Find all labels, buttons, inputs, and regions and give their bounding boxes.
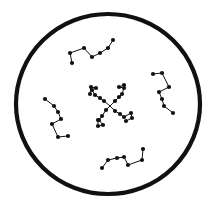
monomer-bead: [52, 104, 56, 108]
monomer-bead: [89, 85, 93, 89]
monomer-bead: [160, 71, 164, 75]
monomer-bead: [157, 90, 161, 94]
monomer-bead: [88, 92, 92, 96]
monomer-bead: [151, 72, 155, 76]
monomer-bead: [106, 158, 110, 162]
monomer-bead: [111, 38, 115, 42]
chain-bottom: [100, 147, 145, 170]
droplet-diagram: [0, 0, 210, 205]
monomer-bead: [117, 95, 121, 99]
chain-left: [43, 97, 70, 139]
monomer-bead: [66, 134, 70, 138]
monomer-bead: [50, 122, 54, 126]
monomer-bead: [104, 108, 108, 112]
monomer-bead: [162, 104, 166, 108]
monomer-bead: [118, 112, 122, 116]
monomer-bead: [117, 85, 121, 89]
star-polymer: [88, 83, 134, 128]
monomer-bead: [59, 117, 63, 121]
monomer-bead: [113, 109, 117, 113]
monomer-bead: [129, 111, 133, 115]
monomer-bead: [171, 111, 175, 115]
monomer-bead: [98, 96, 102, 100]
monomer-bead: [93, 93, 97, 97]
monomer-bead: [120, 92, 124, 96]
monomer-bead: [94, 86, 98, 90]
monomer-bead: [90, 55, 94, 59]
arm-upper-left: [88, 85, 110, 106]
arm-lower-right: [110, 106, 134, 123]
monomer-bead: [113, 99, 117, 103]
monomer-bead: [56, 110, 60, 114]
monomer-bead: [167, 85, 171, 89]
monomer-bead: [43, 97, 47, 101]
monomer-bead: [68, 51, 72, 55]
chain-bond: [70, 40, 113, 63]
chain-top: [68, 38, 115, 65]
monomer-bead: [126, 163, 130, 167]
monomer-bead: [115, 156, 119, 160]
linear-chains: [43, 38, 175, 170]
monomer-bead: [106, 46, 110, 50]
monomer-bead: [124, 119, 128, 123]
monomer-bead: [122, 115, 126, 119]
monomer-bead: [102, 99, 106, 103]
monomer-bead: [160, 97, 164, 101]
chain-bond: [45, 99, 68, 137]
monomer-bead: [101, 123, 105, 127]
monomer-bead: [140, 158, 144, 162]
monomer-bead: [96, 124, 100, 128]
chain-right: [151, 71, 175, 115]
monomer-bead: [98, 51, 102, 55]
monomer-bead: [82, 46, 86, 50]
monomer-bead: [100, 114, 104, 118]
monomer-bead: [70, 61, 74, 65]
monomer-bead: [122, 83, 126, 87]
monomer-bead: [100, 166, 104, 170]
arm-upper-right: [110, 83, 126, 106]
monomer-bead: [130, 116, 134, 120]
monomer-bead: [56, 135, 60, 139]
monomer-bead: [141, 147, 145, 151]
monomer-bead: [96, 118, 100, 122]
arm-lower-left: [96, 106, 110, 128]
monomer-bead: [122, 155, 126, 159]
